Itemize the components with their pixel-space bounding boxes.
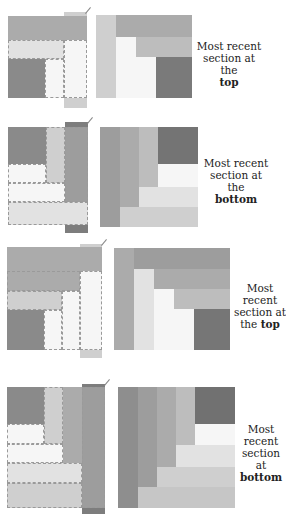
strip-top xyxy=(8,16,87,40)
caption-line: recent xyxy=(234,294,286,306)
strip xyxy=(154,289,174,350)
caption-line: section at the xyxy=(203,169,269,193)
strip xyxy=(116,15,192,37)
strip xyxy=(7,424,44,444)
center-square xyxy=(156,57,192,98)
new-strip-tab-top xyxy=(65,122,88,127)
caption-line: the xyxy=(240,318,261,330)
strip xyxy=(96,15,116,98)
caption-bold: bottom xyxy=(215,193,257,205)
new-strip-tab-top xyxy=(82,384,105,387)
needle-icon xyxy=(104,379,110,386)
strip xyxy=(157,467,235,487)
strip xyxy=(7,463,82,483)
strip xyxy=(8,40,64,59)
caption-4: Most recent section at bottom xyxy=(236,423,286,483)
strip xyxy=(45,59,64,98)
strip xyxy=(176,445,235,467)
strip xyxy=(195,424,235,445)
strip-top xyxy=(7,247,102,271)
caption-bold: top xyxy=(261,318,280,330)
caption-2: Most recent section at the bottom xyxy=(203,157,269,205)
caption-line: Most xyxy=(234,282,286,294)
center-square xyxy=(8,127,46,164)
caption-bold: top xyxy=(219,76,238,88)
caption-line: recent xyxy=(236,435,286,447)
strip xyxy=(100,127,120,227)
new-strip-tab-bottom xyxy=(65,225,88,233)
center-square xyxy=(7,310,44,350)
strip xyxy=(138,487,235,508)
strip xyxy=(8,183,65,202)
strip xyxy=(46,127,65,183)
caption-line: section at the xyxy=(196,52,262,76)
caption-3: Most recent section at the top xyxy=(234,282,286,330)
strip xyxy=(139,127,158,187)
strip xyxy=(174,309,194,350)
strip xyxy=(7,483,82,508)
needle-icon xyxy=(87,117,93,124)
strip xyxy=(62,291,80,350)
strip xyxy=(136,37,192,57)
strip xyxy=(120,207,198,227)
strip xyxy=(64,40,87,98)
strip xyxy=(174,289,230,309)
center-square xyxy=(7,387,44,424)
strip xyxy=(118,387,138,508)
new-strip-tab-top xyxy=(80,244,102,247)
strip xyxy=(120,127,139,207)
strip xyxy=(157,387,176,467)
strip xyxy=(63,387,82,463)
new-strip-tab-bottom xyxy=(64,98,87,108)
caption-1: Most recent section at the top xyxy=(196,40,262,88)
needle-icon xyxy=(85,7,91,14)
strip xyxy=(8,202,88,225)
new-strip-tab-top xyxy=(64,12,87,16)
strip xyxy=(7,291,62,310)
strip xyxy=(136,57,156,98)
caption-line: Most recent xyxy=(196,40,262,52)
strip xyxy=(7,271,80,291)
strip xyxy=(154,269,230,289)
strip xyxy=(44,310,62,350)
center-square xyxy=(195,387,235,424)
new-strip xyxy=(82,387,105,508)
new-strip xyxy=(80,271,102,350)
strip xyxy=(8,164,46,183)
strip xyxy=(176,387,195,445)
new-strip-tab-bottom xyxy=(82,508,105,514)
caption-bold: bottom xyxy=(240,471,282,483)
center-square xyxy=(158,127,198,164)
caption-line: Most recent xyxy=(203,157,269,169)
new-strip xyxy=(65,127,88,202)
caption-line: Most xyxy=(236,423,286,435)
strip xyxy=(134,269,154,350)
strip xyxy=(138,387,157,487)
needle-icon xyxy=(101,239,107,246)
strip xyxy=(139,187,198,207)
caption-line: section at xyxy=(236,447,286,471)
strip xyxy=(116,37,136,98)
center-square xyxy=(194,309,230,350)
strip xyxy=(158,164,198,187)
center-square xyxy=(8,59,45,98)
new-strip-tab-bottom xyxy=(80,350,102,358)
strip xyxy=(7,444,63,463)
strip xyxy=(44,387,63,444)
strip xyxy=(134,248,230,269)
strip xyxy=(114,248,134,350)
caption-line: section at xyxy=(234,306,286,318)
